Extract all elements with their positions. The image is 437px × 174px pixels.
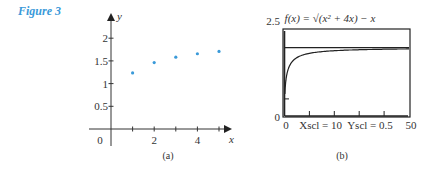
data-point	[217, 50, 220, 53]
scatter-plot-a: 24 0.511.52 x y 0 (a)	[89, 10, 234, 162]
data-point	[153, 61, 156, 64]
y-axis-arrow-icon	[107, 13, 115, 21]
x-tick-label: 4	[195, 134, 201, 146]
y-max-label: 2.5	[266, 15, 280, 27]
data-point	[174, 56, 177, 59]
x-axis-label: x	[228, 133, 234, 145]
function-title: f(x) = √(x² + 4x) − x	[285, 12, 376, 25]
graph-ticks	[285, 99, 385, 116]
origin-label: 0	[97, 134, 103, 146]
data-point	[131, 71, 134, 74]
panel-a-caption: (a)	[162, 150, 173, 162]
y-tick-label: 2	[103, 32, 109, 44]
x-axis-arrow-icon	[224, 125, 232, 133]
y-tick-label: 0.5	[94, 100, 108, 112]
figure-canvas: 24 0.511.52 x y 0 (a) f(x) = √(x² + 4x) …	[0, 0, 437, 174]
y-tick-label: 1	[103, 78, 109, 90]
y-tick-label: 1.5	[94, 55, 108, 67]
x-min-label: 0	[283, 119, 289, 131]
calculator-graph-b: f(x) = √(x² + 4x) − x 2.5 0 0 50 Xscl = …	[266, 12, 417, 162]
y-axis-label: y	[116, 10, 122, 22]
data-points	[131, 50, 221, 75]
x-max-label: 50	[406, 119, 418, 131]
panel-b-caption: (b)	[336, 150, 348, 162]
function-curve	[285, 49, 409, 94]
x-tick-label: 2	[151, 134, 157, 146]
y-min-label: 0	[275, 111, 281, 123]
data-point	[196, 52, 199, 55]
graph-window	[283, 29, 410, 117]
window-scale-note: Xscl = 10 Yscl = 0.5	[299, 119, 393, 131]
